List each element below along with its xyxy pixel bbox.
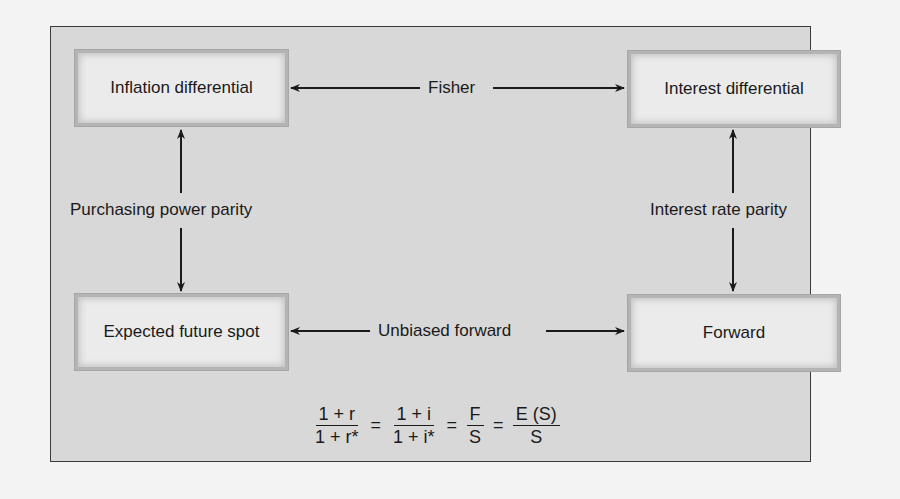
- node-label: Expected future spot: [104, 322, 260, 342]
- parity-formula: 1 + r 1 + r* = 1 + i 1 + i* = F S = E (S…: [312, 403, 560, 448]
- equals-sign: =: [371, 415, 382, 436]
- edge-label-irp: Interest rate parity: [650, 200, 787, 220]
- node-inflation-differential: Inflation differential: [74, 49, 289, 127]
- node-forward: Forward: [627, 294, 841, 372]
- equals-sign: =: [447, 415, 458, 436]
- numerator: E (S): [513, 403, 560, 426]
- numerator: 1 + i: [394, 403, 435, 426]
- edge-label-unbiased-forward: Unbiased forward: [378, 321, 511, 341]
- node-label: Inflation differential: [110, 78, 252, 98]
- fraction-forward-spot: F S: [466, 403, 484, 448]
- equals-sign: =: [493, 415, 504, 436]
- fraction-expected-spot: E (S) S: [513, 403, 560, 448]
- node-interest-differential: Interest differential: [627, 50, 841, 128]
- edge-label-fisher: Fisher: [428, 78, 475, 98]
- numerator: F: [467, 403, 484, 426]
- node-label: Forward: [703, 323, 765, 343]
- fraction-interest: 1 + i 1 + i*: [390, 403, 438, 448]
- node-expected-future-spot: Expected future spot: [74, 293, 289, 371]
- denominator: 1 + r*: [312, 426, 362, 448]
- denominator: S: [527, 426, 545, 448]
- node-label: Interest differential: [664, 79, 804, 99]
- denominator: 1 + i*: [390, 426, 438, 448]
- fraction-real-rate: 1 + r 1 + r*: [312, 403, 362, 448]
- denominator: S: [466, 426, 484, 448]
- numerator: 1 + r: [316, 403, 359, 426]
- edge-label-ppp: Purchasing power parity: [70, 200, 252, 220]
